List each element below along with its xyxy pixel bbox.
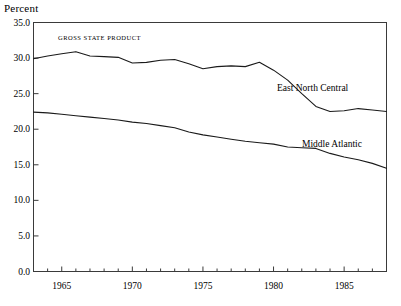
plot-canvas bbox=[0, 0, 401, 306]
y-tick-label: 25.0 bbox=[13, 89, 30, 99]
series-lines bbox=[34, 52, 387, 169]
series-label-middle-atlantic: Middle Atlantic bbox=[302, 139, 362, 149]
y-tick-label: 20.0 bbox=[13, 124, 30, 134]
y-tick-label: 10.0 bbox=[13, 195, 30, 205]
y-tick-label: 35.0 bbox=[13, 18, 30, 28]
series-label-east-north-central: East North Central bbox=[277, 83, 348, 93]
chart-figure: Percent 0.05.010.015.020.025.030.035.0 1… bbox=[0, 0, 401, 306]
x-tick-label: 1970 bbox=[123, 281, 142, 291]
y-tick-label: 15.0 bbox=[13, 160, 30, 170]
y-tick-label: 0.0 bbox=[18, 267, 30, 277]
y-tick-label: 30.0 bbox=[13, 53, 30, 63]
x-tick-label: 1965 bbox=[52, 281, 71, 291]
x-tick-label: 1985 bbox=[335, 281, 354, 291]
chart-annotation: GROSS STATE PRODUCT bbox=[58, 34, 141, 41]
y-tick-label: 5.0 bbox=[18, 231, 30, 241]
x-tick-label: 1980 bbox=[264, 281, 283, 291]
y-tick-labels: 0.05.010.015.020.025.030.035.0 bbox=[0, 0, 30, 306]
x-tick-label: 1975 bbox=[193, 281, 212, 291]
